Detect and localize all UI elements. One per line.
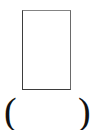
parenthesis-blank-content[interactable] [15,92,77,130]
box-interior-blank [23,11,70,89]
close-parenthesis: ) [78,92,91,130]
empty-rectangle-box[interactable] [22,10,71,90]
figure-canvas: ( ) [0,0,94,130]
parenthesis-row: ( ) [0,92,94,130]
